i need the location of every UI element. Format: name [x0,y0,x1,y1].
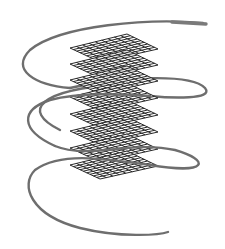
helix-grid-illustration [0,0,225,249]
